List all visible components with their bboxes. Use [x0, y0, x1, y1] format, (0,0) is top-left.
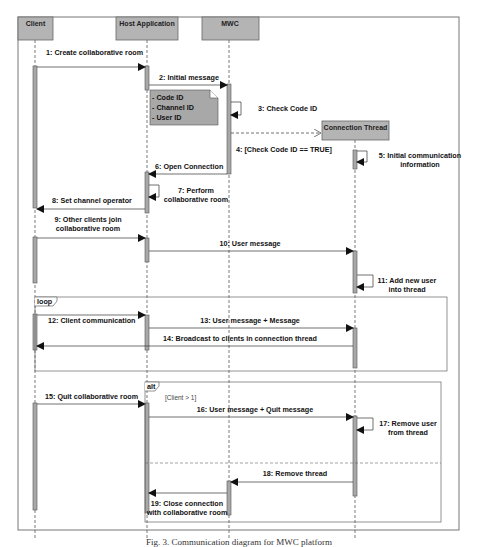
diagram-frame	[18, 17, 459, 530]
message-19-label-line2: with collaborative room	[146, 508, 228, 517]
message-18-label: 18: Remove thread	[263, 469, 327, 478]
svg-text:- Channel ID: - Channel ID	[152, 103, 194, 112]
svg-text:Host Application: Host Application	[119, 20, 174, 28]
message-17-label-line2: from thread	[388, 428, 428, 437]
message-14-label: 14: Broadcast to clients in connection t…	[163, 334, 317, 343]
lifeline-header-mwc: MWC	[202, 17, 259, 40]
message-1-label: 1: Create collaborative room	[46, 48, 143, 57]
message-6-label: 6: Open Connection	[155, 162, 223, 171]
message-7-label-line2: collaborative room	[164, 195, 228, 204]
alt-guard: [Client > 1]	[165, 394, 196, 402]
message-15-label: 15: Quit collaborative room	[45, 392, 138, 401]
message-12-label: 12: Client communication	[48, 316, 135, 325]
message-16-label: 16: User message + Quit message	[197, 405, 313, 414]
svg-text:Client: Client	[26, 20, 46, 27]
lifeline-header-connection-thread: Connection Thread	[322, 121, 389, 140]
message-10-label: 10: User message	[219, 239, 280, 248]
message-2-label: 2: Initial message	[159, 73, 219, 82]
message-5-label-line1: 5: Initial communication	[379, 151, 461, 160]
message-13-label: 13: User message + Message	[200, 316, 300, 325]
message-17-label-line1: 17: Remove user	[379, 419, 437, 428]
sequence-diagram: Client Host Application MWC Connection T…	[0, 0, 478, 547]
svg-text:- User ID: - User ID	[152, 113, 182, 122]
lifeline-header-client: Client	[18, 17, 53, 40]
message-11-label-line2: into thread	[388, 285, 425, 294]
svg-text:loop: loop	[37, 297, 53, 306]
message-7-label-line1: 7: Perform	[178, 186, 214, 195]
message-11-label-line1: 11: Add new user	[378, 276, 437, 285]
lifeline-header-host: Host Application	[116, 17, 178, 40]
message-19-label-line1: 19: Close connection	[151, 499, 223, 508]
figure-caption: Fig. 3. Communication diagram for MWC pl…	[146, 537, 332, 547]
message-3-label: 3: Check Code ID	[258, 104, 317, 113]
message-5-label-line2: information	[400, 160, 440, 169]
svg-text:alt: alt	[147, 382, 156, 391]
message-8-label: 8: Set channel operator	[52, 196, 132, 205]
parameters-note: - Code ID - Channel ID - User ID	[150, 90, 218, 125]
message-4-label: 4: [Check Code ID == TRUE]	[236, 145, 332, 154]
message-9-label-line2: collaborative room	[56, 224, 120, 233]
svg-text:Connection Thread: Connection Thread	[324, 124, 388, 131]
svg-text:- Code ID: - Code ID	[152, 93, 184, 102]
svg-text:MWC: MWC	[221, 20, 239, 27]
message-9-label-line1: 9: Other clients join	[54, 215, 121, 224]
